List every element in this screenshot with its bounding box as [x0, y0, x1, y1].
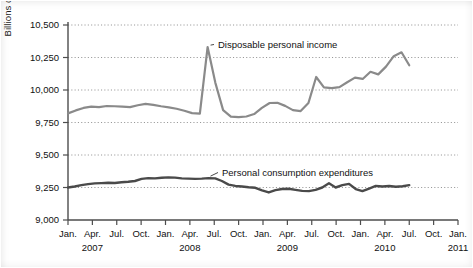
x-tick-label: Apr. [279, 228, 296, 239]
x-tick-label: Jan. [254, 228, 272, 239]
x-tick-label: Apr. [376, 228, 393, 239]
chart-figure: Billions of 2005 Dollars 9,0009,2509,500… [0, 0, 473, 268]
x-tick-label: Jan. [449, 228, 467, 239]
x-tick-label: Jan. [157, 228, 175, 239]
series-annotation-label: Personal consumption expenditures [222, 167, 373, 178]
x-tick-label: Apr. [181, 228, 198, 239]
x-tick-label: Apr. [84, 228, 101, 239]
x-year-label: 2009 [277, 242, 298, 253]
x-tick-label: Oct. [230, 228, 247, 239]
x-tick-label: Oct. [327, 228, 344, 239]
series-line [68, 177, 409, 192]
x-tick-marks-group [68, 220, 458, 225]
line-chart-svg: 9,0009,2509,5009,75010,00010,25010,500 J… [0, 0, 473, 268]
annotation-leader-line [211, 173, 218, 177]
x-tick-label: Oct. [425, 228, 442, 239]
x-tick-label: Jan. [59, 228, 77, 239]
annotation-leader-line [211, 45, 214, 46]
x-year-label: 2011 [448, 242, 468, 253]
x-year-label: 2008 [179, 242, 200, 253]
series-annotation-label: Disposable personal income [218, 39, 337, 50]
y-tick-label: 10,000 [30, 84, 59, 95]
x-tick-label: Jul. [207, 228, 222, 239]
x-tick-label: Jan. [352, 228, 370, 239]
x-year-labels-group: 20072008200920102011 [82, 242, 468, 253]
y-tick-label: 10,500 [30, 19, 59, 30]
series-line [68, 47, 409, 117]
y-tick-labels-group: 9,0009,2509,5009,75010,00010,25010,500 [30, 19, 59, 225]
x-tick-label: Jul. [109, 228, 124, 239]
plot-area: 9,0009,2509,5009,75010,00010,25010,500 J… [0, 0, 473, 268]
y-tick-label: 9,750 [35, 117, 59, 128]
y-tick-label: 10,250 [30, 52, 59, 63]
y-tick-label: 9,500 [35, 149, 59, 160]
x-tick-label: Jul. [402, 228, 417, 239]
y-tick-label: 9,000 [35, 214, 59, 225]
x-tick-label: Jul. [304, 228, 319, 239]
y-tick-marks-group [63, 25, 68, 220]
x-tick-label: Oct. [132, 228, 149, 239]
y-tick-label: 9,250 [35, 182, 59, 193]
x-year-label: 2007 [82, 242, 103, 253]
x-tick-labels-group: Jan.Apr.Jul.Oct.Jan.Apr.Jul.Oct.Jan.Apr.… [59, 228, 467, 239]
x-year-label: 2010 [374, 242, 395, 253]
